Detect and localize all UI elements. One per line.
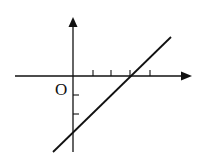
y-axis-arrow-icon: [69, 17, 78, 27]
function-line: [53, 37, 171, 152]
origin-label: O: [55, 80, 67, 99]
x-axis-arrow-icon: [181, 72, 192, 81]
x-axis-ticks: [93, 70, 150, 76]
x-axis: [15, 70, 192, 81]
y-axis-ticks: [73, 95, 79, 114]
graph-canvas: O: [0, 0, 202, 161]
